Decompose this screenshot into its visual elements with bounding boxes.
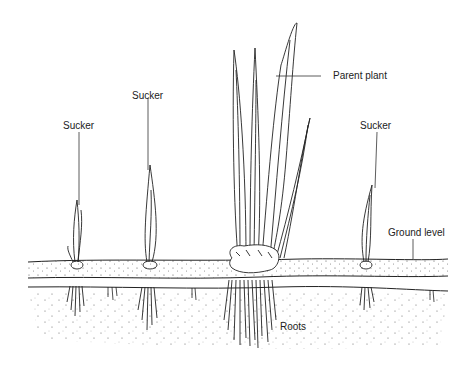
sucker-right-plant [360,185,374,310]
label-sucker-mid: Sucker [132,90,163,101]
label-parent-plant: Parent plant [333,70,387,81]
soil [28,290,448,349]
label-sucker-right: Sucker [360,120,391,131]
label-roots: Roots [280,321,306,332]
label-sucker-left: Sucker [63,120,94,131]
diagram-canvas [0,0,474,365]
label-ground-level: Ground level [388,227,445,238]
